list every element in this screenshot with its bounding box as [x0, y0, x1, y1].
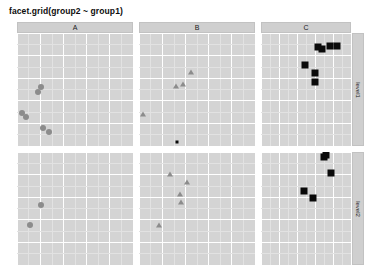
gridline-horizontal	[17, 123, 133, 124]
gridline-horizontal	[139, 123, 255, 124]
gridline-horizontal	[17, 219, 133, 220]
panel-a-level1	[17, 33, 133, 146]
gridline-horizontal-minor	[139, 186, 255, 187]
panel-c-level2	[261, 152, 351, 265]
gridline-horizontal	[261, 146, 351, 147]
data-point-square	[301, 62, 308, 69]
gridline-horizontal	[17, 242, 133, 243]
gridline-horizontal	[261, 78, 351, 79]
gridline-horizontal-minor	[261, 208, 351, 209]
gridline-horizontal	[261, 242, 351, 243]
facet-col-label-a: A	[73, 24, 78, 31]
data-point-square	[326, 42, 333, 49]
data-point-square	[327, 169, 334, 176]
gridline-horizontal-minor	[17, 208, 133, 209]
data-point-circle	[27, 222, 33, 228]
gridline-horizontal	[139, 265, 255, 266]
gridline-horizontal-minor	[261, 186, 351, 187]
data-point-square	[318, 46, 325, 53]
data-point-triangle	[140, 111, 146, 116]
gridline-horizontal-minor	[17, 253, 133, 254]
gridline-horizontal	[139, 55, 255, 56]
gridline-horizontal	[17, 78, 133, 79]
facet-col-label-b: B	[195, 24, 200, 31]
facet-grid-plot: facet.grid(group2 ~ group1) A B C level1…	[0, 0, 382, 273]
data-point-triangle	[178, 200, 184, 205]
gridline-horizontal	[139, 152, 255, 153]
data-point-triangle	[180, 82, 186, 87]
gridline-horizontal	[261, 265, 351, 266]
gridline-horizontal-minor	[139, 231, 255, 232]
gridline-horizontal-minor	[261, 134, 351, 135]
gridline-horizontal	[17, 152, 133, 153]
gridline-horizontal	[139, 174, 255, 175]
gridline-horizontal	[261, 100, 351, 101]
gridline-horizontal	[17, 146, 133, 147]
gridline-horizontal	[261, 33, 351, 34]
data-point-square	[309, 194, 316, 201]
facet-col-strip-b: B	[139, 22, 255, 33]
gridline-horizontal-minor	[17, 134, 133, 135]
data-point-square	[311, 70, 318, 77]
gridline-horizontal-minor	[139, 67, 255, 68]
facet-col-label-c: C	[303, 24, 308, 31]
data-point-circle	[35, 89, 41, 95]
gridline-horizontal	[261, 123, 351, 124]
gridline-horizontal	[261, 152, 351, 153]
page-title: facet.grid(group2 ~ group1)	[9, 6, 123, 16]
gridline-horizontal	[139, 78, 255, 79]
gridline-horizontal	[139, 219, 255, 220]
data-point-triangle	[184, 179, 190, 184]
gridline-horizontal	[139, 146, 255, 147]
gridline-horizontal-minor	[17, 44, 133, 45]
gridline-horizontal-minor	[261, 89, 351, 90]
gridline-horizontal	[261, 55, 351, 56]
gridline-horizontal	[139, 197, 255, 198]
gridline-horizontal-minor	[17, 186, 133, 187]
gridline-horizontal	[17, 55, 133, 56]
gridline-horizontal-minor	[139, 112, 255, 113]
facet-col-strip-c: C	[261, 22, 351, 33]
gridline-horizontal-minor	[17, 112, 133, 113]
gridline-horizontal-minor	[139, 253, 255, 254]
data-point-square	[175, 141, 178, 144]
gridline-horizontal	[17, 33, 133, 34]
gridline-horizontal-minor	[261, 112, 351, 113]
facet-row-label-level1: level1	[355, 82, 361, 98]
gridline-horizontal-minor	[261, 163, 351, 164]
gridline-horizontal-minor	[139, 208, 255, 209]
data-point-triangle	[188, 69, 194, 74]
data-point-circle	[23, 114, 29, 120]
gridline-horizontal	[139, 242, 255, 243]
panel-b-level1	[139, 33, 255, 146]
gridline-horizontal-minor	[17, 89, 133, 90]
gridline-horizontal-minor	[139, 89, 255, 90]
gridline-horizontal	[261, 197, 351, 198]
data-point-square	[334, 42, 341, 49]
gridline-horizontal-minor	[261, 253, 351, 254]
gridline-horizontal	[139, 100, 255, 101]
data-point-square	[311, 79, 318, 86]
facet-col-strip-a: A	[17, 22, 133, 33]
facet-row-label-level2: level2	[355, 201, 361, 217]
panel-b-level2	[139, 152, 255, 265]
data-point-triangle	[173, 83, 179, 88]
data-point-circle	[46, 129, 52, 135]
gridline-horizontal-minor	[139, 134, 255, 135]
gridline-horizontal-minor	[17, 231, 133, 232]
facet-row-strip-level2: level2	[352, 152, 364, 265]
gridline-horizontal	[17, 174, 133, 175]
facet-row-strip-level1: level1	[352, 33, 364, 146]
gridline-horizontal-minor	[261, 231, 351, 232]
gridline-horizontal-minor	[17, 163, 133, 164]
gridline-horizontal	[17, 265, 133, 266]
gridline-horizontal-minor	[139, 163, 255, 164]
gridline-horizontal	[17, 100, 133, 101]
data-point-triangle	[167, 172, 173, 177]
panel-c-level1	[261, 33, 351, 146]
gridline-horizontal-minor	[139, 44, 255, 45]
data-point-triangle	[177, 192, 183, 197]
data-point-triangle	[156, 222, 162, 227]
data-point-square	[300, 187, 307, 194]
data-point-square	[323, 152, 330, 158]
